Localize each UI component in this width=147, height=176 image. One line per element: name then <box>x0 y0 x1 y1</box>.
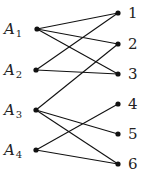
node-1 <box>115 10 120 15</box>
node-a2 <box>33 67 38 72</box>
label-a4: A4 <box>2 141 22 160</box>
edge-a2-3 <box>36 70 118 74</box>
bipartite-graph: A1A2A3A4123456 <box>0 0 147 176</box>
node-a3 <box>33 107 38 112</box>
label-node-5: 5 <box>128 125 138 143</box>
node-3 <box>115 71 120 76</box>
edge-a1-3 <box>37 29 118 74</box>
label-node-2: 2 <box>128 35 138 53</box>
edge-a4-6 <box>36 150 118 164</box>
edge-a3-2 <box>36 44 118 110</box>
node-6 <box>115 161 120 166</box>
edge-a4-4 <box>36 104 118 150</box>
node-2 <box>115 41 120 46</box>
node-4 <box>115 101 120 106</box>
labels: A1A2A3A4123456 <box>2 4 138 173</box>
label-node-1: 1 <box>128 4 138 22</box>
label-a2: A2 <box>2 61 22 80</box>
edge-a3-5 <box>36 110 118 134</box>
node-5 <box>115 131 120 136</box>
label-node-4: 4 <box>128 95 138 113</box>
label-node-6: 6 <box>128 155 138 173</box>
label-a1: A1 <box>2 20 22 39</box>
label-a3: A3 <box>2 101 22 120</box>
edge-a3-6 <box>36 110 118 164</box>
node-a4 <box>33 147 38 152</box>
label-node-3: 3 <box>128 65 138 83</box>
edges <box>36 13 118 164</box>
node-a1 <box>34 26 39 31</box>
